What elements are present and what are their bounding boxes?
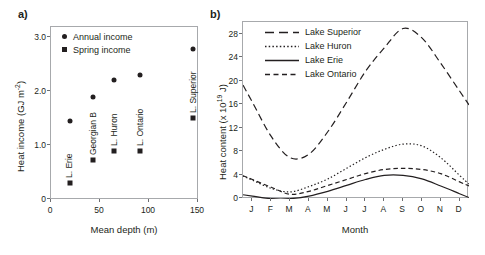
point-label-huron: L. Huron: [109, 113, 119, 146]
panel-b-xtick-7: A: [373, 204, 393, 214]
panel-b-xtick-5: J: [336, 204, 356, 214]
panel-b-legend: Lake Superior Lake Huron Lake Erie Lake …: [265, 25, 361, 81]
point-label-ontario: L. Ontario: [135, 109, 145, 146]
legend-label-spring-income: Spring income: [73, 45, 131, 55]
panel-a-xtick-mark-3: [197, 199, 198, 202]
panel-b-xtick-mark-11: [459, 198, 460, 201]
square-marker-icon: [62, 47, 67, 52]
line-style-dashed-icon: [265, 70, 299, 79]
panel-b-xtick-mark-2: [289, 198, 290, 201]
panel-b-xtick-4: M: [317, 204, 337, 214]
panel-b-ytick-1: 4: [216, 170, 238, 180]
panel-b-label: b): [210, 8, 220, 20]
panel-a-ytick-2: 2.0: [24, 86, 46, 96]
panel-b-xtick-mark-8: [402, 198, 403, 201]
panel-a-xtick-mark-2: [148, 199, 149, 202]
panel-a-xtick-1: 50: [87, 205, 111, 215]
panel-b-xtick-6: J: [354, 204, 374, 214]
panel-b-ytick-6: 24: [216, 52, 238, 62]
legend-label-lake-erie: Lake Erie: [305, 55, 343, 65]
data-point-spring-superior: [191, 115, 196, 120]
panel-b-xtick-3: A: [298, 204, 318, 214]
panel-a-y-axis-title-exponent: -2: [14, 84, 21, 90]
curve-lake-erie: [243, 175, 469, 199]
panel-b-xtick-10: N: [430, 204, 450, 214]
panel-b-xtick-0: J: [241, 204, 261, 214]
line-style-solid-icon: [265, 56, 299, 65]
legend-item-lake-ontario: Lake Ontario: [265, 67, 361, 81]
panel-b-xtick-mark-7: [383, 198, 384, 201]
panel-b-xtick-2: M: [279, 204, 299, 214]
data-point-spring-huron: [112, 148, 117, 153]
figure-container: a) Heat income (GJ m-2) 0 1.0 2.0 3.0 An…: [0, 0, 485, 255]
panel-a-xtick-0: 0: [38, 205, 62, 215]
legend-item-spring-income: Spring income: [62, 43, 133, 56]
legend-item-lake-huron: Lake Huron: [265, 39, 361, 53]
panel-b-y-axis-title-prefix: Heat content (x 10: [217, 102, 228, 180]
panel-b-xtick-mark-4: [327, 198, 328, 201]
line-style-long-dash-icon: [265, 28, 299, 37]
curve-lake-huron: [243, 144, 469, 192]
panel-b-xtick-mark-0: [251, 198, 252, 201]
panel-b-xtick-mark-6: [364, 198, 365, 201]
panel-b-ytick-4: 16: [216, 99, 238, 109]
data-point-annual-georgian: [91, 95, 96, 100]
data-point-spring-georgian: [91, 158, 96, 163]
panel-a-ytick-3: 3.0: [24, 32, 46, 42]
panel-a-y-axis-title-suffix: ): [15, 81, 26, 84]
data-point-annual-erie: [67, 118, 72, 123]
panel-b-xtick-11: D: [449, 204, 469, 214]
panel-a-x-axis-title: Mean depth (m): [50, 224, 198, 235]
point-label-erie: L. Erie: [64, 153, 74, 178]
legend-item-annual-income: Annual income: [62, 30, 133, 43]
panel-a-xtick-3: 150: [185, 205, 209, 215]
data-point-annual-superior: [191, 46, 196, 51]
point-label-superior: L. Superior: [188, 71, 198, 113]
panel-a-xtick-mark-0: [50, 199, 51, 202]
panel-b-xtick-mark-3: [308, 198, 309, 201]
panel-b-xtick-mark-1: [270, 198, 271, 201]
panel-b-ytick-7: 28: [216, 29, 238, 39]
legend-label-lake-ontario: Lake Ontario: [305, 69, 357, 79]
panel-a-ytick-1: 1.0: [24, 140, 46, 150]
data-point-spring-ontario: [137, 148, 142, 153]
legend-label-lake-huron: Lake Huron: [305, 41, 352, 51]
legend-item-lake-superior: Lake Superior: [265, 25, 361, 39]
panel-b-xtick-mark-5: [346, 198, 347, 201]
data-point-spring-erie: [67, 180, 72, 185]
circle-marker-icon: [62, 34, 67, 39]
line-style-dotted-icon: [265, 42, 299, 51]
panel-b: b) Heat content (x 1019 J) 0 4 8 12 16 2…: [210, 0, 485, 255]
panel-a: a) Heat income (GJ m-2) 0 1.0 2.0 3.0 An…: [0, 0, 210, 255]
legend-item-lake-erie: Lake Erie: [265, 53, 361, 67]
panel-b-xtick-9: O: [411, 204, 431, 214]
panel-a-xtick-2: 100: [136, 205, 160, 215]
panel-b-xtick-mark-9: [421, 198, 422, 201]
legend-label-lake-superior: Lake Superior: [305, 27, 361, 37]
point-label-georgian: Georgian B: [88, 112, 98, 155]
panel-b-xtick-8: S: [392, 204, 412, 214]
panel-b-ytick-3: 12: [216, 123, 238, 133]
panel-a-y-axis-title-prefix: Heat income (GJ m: [15, 90, 26, 172]
legend-label-annual-income: Annual income: [73, 32, 133, 42]
panel-b-ytick-0: 0: [216, 193, 238, 203]
panel-b-x-axis-title: Month: [242, 224, 468, 235]
panel-b-ytick-2: 8: [216, 146, 238, 156]
panel-b-xtick-1: F: [260, 204, 280, 214]
panel-b-xtick-mark-10: [440, 198, 441, 201]
data-point-annual-huron: [112, 77, 117, 82]
data-point-annual-ontario: [137, 72, 142, 77]
panel-a-ytick-0: 0: [24, 194, 46, 204]
panel-a-legend: Annual income Spring income: [62, 30, 133, 56]
panel-a-xtick-mark-1: [99, 199, 100, 202]
panel-b-ytick-5: 20: [216, 76, 238, 86]
panel-a-label: a): [18, 8, 28, 20]
